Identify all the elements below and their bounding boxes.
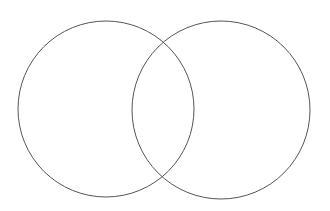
left-circle: [18, 21, 194, 197]
venn-diagram: [0, 0, 330, 211]
venn-svg: [0, 0, 330, 211]
right-circle: [132, 21, 310, 199]
